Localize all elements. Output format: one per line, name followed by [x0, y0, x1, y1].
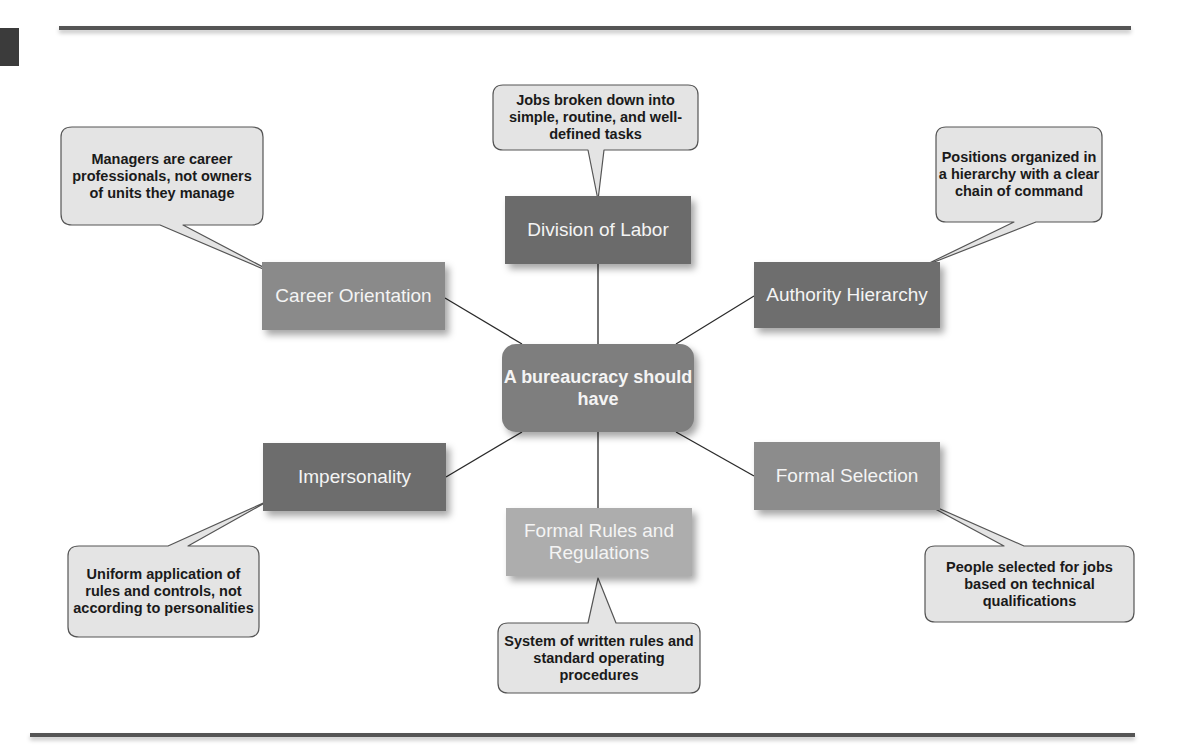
node-division-of-labor: Division of Labor [505, 196, 691, 264]
connector-impersonality [446, 432, 522, 477]
node-authority-hierarchy: Authority Hierarchy [754, 262, 940, 328]
bubble-text-career: Managers are career professionals, not o… [64, 127, 260, 225]
connector-authority [676, 296, 754, 344]
bubble-text-impersonality: Uniform application of rules and control… [72, 546, 255, 637]
node-formal-selection: Formal Selection [754, 442, 940, 510]
bubble-text-selection: People selected for jobs based on techni… [927, 546, 1132, 622]
center-node: A bureaucracy should have [502, 344, 694, 432]
node-impersonality: Impersonality [263, 443, 446, 511]
bubble-text-authority: Positions organized in a hierarchy with … [938, 127, 1100, 222]
connector-selection [676, 432, 754, 476]
node-formal-rules: Formal Rules and Regulations [506, 508, 692, 576]
node-career-orientation: Career Orientation [262, 262, 445, 330]
connector-career [445, 298, 522, 344]
bubble-text-rules: System of written rules and standard ope… [500, 623, 698, 693]
bubble-text-division: Jobs broken down into simple, routine, a… [493, 85, 698, 150]
